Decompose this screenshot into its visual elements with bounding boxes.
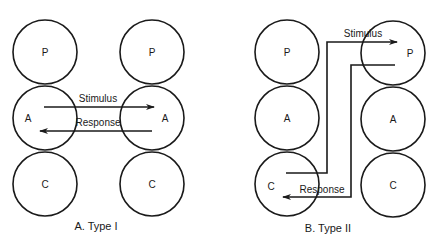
panel-b-right-c-label: C [389,180,396,191]
panel-b-stimulus-label: Stimulus [344,28,382,39]
panel-a-left-p-label: P [42,47,49,58]
panel-a-stimulus-label: Stimulus [79,93,117,104]
panel-a-left-a-circle [13,86,77,150]
panel-a-type-i: P A C P A C Stimulus Response A. Type I [13,20,184,232]
panel-a-right-a-circle [120,86,184,150]
panel-a-right-c-label: C [148,179,155,190]
panel-a-caption: A. Type I [74,220,117,232]
panel-a-left-c-label: C [41,179,48,190]
panel-b-response-label: Response [299,184,344,195]
panel-a-right-column: P A C [120,20,184,216]
panel-a-left-a-label: A [25,113,32,124]
panel-b-left-a-label: A [284,113,291,124]
panel-b-response-arrow [283,65,395,197]
panel-a-response-label: Response [75,117,120,128]
panel-b-right-p-label: P [407,48,414,59]
panel-a-right-p-label: P [149,47,156,58]
panel-b-type-ii: P A C P A C Stimulus Response B. Type II [255,20,425,234]
panel-a-right-a-label: A [162,113,169,124]
panel-b-right-a-label: A [390,114,397,125]
panel-b-caption: B. Type II [305,222,351,234]
panel-b-left-p-label: P [284,47,291,58]
panel-b-stimulus-arrow [286,42,397,173]
panel-b-left-c-label: C [267,181,274,192]
panel-b-right-column: P A C [361,21,425,217]
panel-a-left-column: P A C [13,20,77,216]
transactional-analysis-diagram: P A C P A C Stimulus Response A. Type I … [0,0,440,242]
